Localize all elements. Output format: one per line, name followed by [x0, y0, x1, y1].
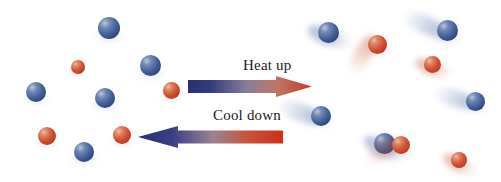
- hot-motion-trail: [361, 131, 413, 168]
- hot-motion-trail: [441, 150, 480, 181]
- hot-shadow: [314, 34, 342, 47]
- cool-down-label: Cool down: [213, 107, 281, 124]
- hot-particle-blue: [466, 92, 485, 111]
- cold-particle-red: [71, 60, 85, 74]
- hot-shadow: [389, 146, 413, 157]
- hot-motion-trail: [399, 6, 451, 43]
- heat-up-arrow: [188, 76, 312, 97]
- hot-particle-red: [424, 56, 441, 73]
- hot-motion-trail: [413, 55, 455, 82]
- hot-particle-red: [392, 136, 410, 154]
- cold-shadow: [160, 91, 183, 102]
- hot-shadow: [448, 161, 470, 171]
- hot-particle-red: [368, 35, 387, 54]
- cold-shadow: [22, 93, 49, 105]
- heat-up-label: Heat up: [243, 57, 291, 74]
- cold-shadow: [94, 29, 124, 43]
- hot-particle-red: [451, 152, 467, 168]
- hot-shadow: [370, 145, 398, 158]
- cold-particle-blue: [26, 82, 46, 102]
- hot-motion-trail: [274, 95, 323, 127]
- hot-particle-blue: [311, 106, 331, 126]
- cold-shadow: [110, 136, 134, 147]
- cold-particle-blue: [98, 17, 120, 39]
- cold-shadow: [68, 68, 87, 77]
- cold-particle-blue: [95, 88, 115, 108]
- hot-motion-trail: [360, 134, 404, 168]
- hot-motion-trail: [344, 32, 380, 78]
- hot-motion-trail: [305, 20, 357, 54]
- hot-shadow: [307, 117, 334, 129]
- cool-down-arrow: [138, 126, 283, 148]
- hot-particle-blue: [374, 133, 395, 154]
- hot-motion-trail: [431, 85, 478, 112]
- cold-particle-blue: [74, 142, 94, 162]
- cold-shadow: [136, 67, 164, 80]
- hot-particle-blue: [318, 22, 339, 43]
- cold-shadow: [35, 137, 59, 148]
- cold-particle-red: [113, 126, 131, 144]
- cold-particle-blue: [140, 55, 161, 76]
- hot-shadow: [433, 32, 461, 45]
- cold-particle-red: [38, 127, 56, 145]
- cold-shadow: [70, 153, 97, 165]
- hot-particle-blue: [437, 20, 458, 41]
- kinetic-motion-figure: Heat up Cool down: [0, 0, 501, 182]
- hot-shadow: [365, 45, 391, 57]
- hot-shadow: [463, 102, 489, 114]
- hot-shadow: [421, 65, 444, 76]
- cold-shadow: [91, 99, 118, 111]
- cold-particle-red: [163, 82, 180, 99]
